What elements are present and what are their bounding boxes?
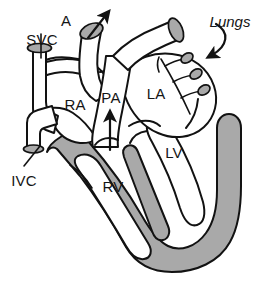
heart-diagram: A SVC IVC RA PA LA LV RV Lungs <box>0 0 271 291</box>
label-left-ventricle: LV <box>165 144 183 161</box>
heart-anatomy-illustration: A SVC IVC RA PA LA LV RV Lungs <box>0 0 271 291</box>
label-lungs: Lungs <box>210 13 251 30</box>
label-superior-vena-cava: SVC <box>26 31 57 48</box>
label-left-atrium: LA <box>147 85 166 102</box>
label-right-atrium: RA <box>64 96 85 113</box>
label-pulmonary-artery: PA <box>101 89 120 106</box>
label-aorta: A <box>61 12 71 29</box>
label-inferior-vena-cava: IVC <box>11 172 37 189</box>
lv-inflow-line <box>130 131 147 143</box>
label-right-ventricle: RV <box>103 178 124 195</box>
